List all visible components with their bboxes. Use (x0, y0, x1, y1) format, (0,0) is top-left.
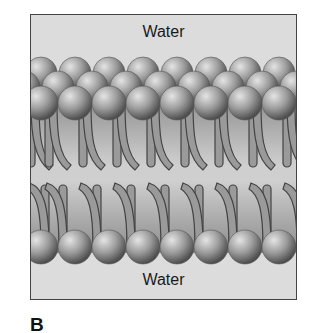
panel-letter: B (30, 314, 44, 333)
lipid-bilayer-illustration (31, 15, 297, 300)
bilayer-diagram-panel: Water Water (30, 14, 297, 300)
water-label-top: Water (31, 23, 296, 41)
water-label-bottom: Water (31, 271, 296, 289)
